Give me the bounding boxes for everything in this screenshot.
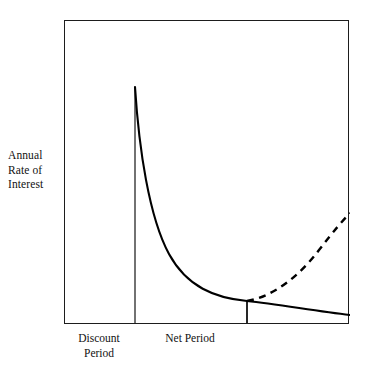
penalty-accrual-dashed-curve [247,213,350,301]
y-axis-label: Annual Rate of Interest [8,148,64,192]
chart-svg [65,21,350,325]
figure-container: Annual Rate of Interest Discount Period … [0,0,366,372]
x-label-net-period-line-1: Net Period [134,331,246,346]
y-axis-label-line-1: Annual [8,148,64,163]
y-axis-label-line-2: Rate of [8,163,64,178]
x-label-discount-period-line-1: Discount [64,331,134,346]
y-axis-label-line-3: Interest [8,177,64,192]
x-label-net-period: Net Period [134,331,246,346]
interest-rate-decay-curve [135,87,350,315]
plot-area [64,20,349,324]
x-label-discount-period: Discount Period [64,331,134,360]
x-label-discount-period-line-2: Period [64,346,134,361]
